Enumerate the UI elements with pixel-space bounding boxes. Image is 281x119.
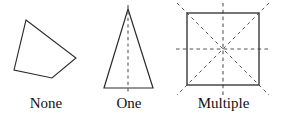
figure-none-group: [14, 20, 76, 78]
figure-multiple-group: [176, 3, 271, 95]
figure-one-group: [104, 5, 153, 94]
irregular-quadrilateral-shape: [14, 20, 76, 78]
figure-label-none: None: [0, 95, 92, 112]
figure-label-one: One: [92, 95, 166, 112]
figure-label-multiple: Multiple: [166, 95, 281, 112]
